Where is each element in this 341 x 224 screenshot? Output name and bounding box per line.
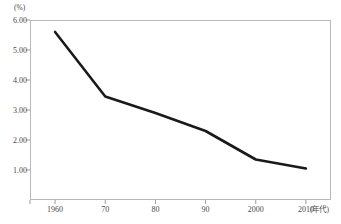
x-axis-tick-label: 90 bbox=[202, 205, 210, 214]
x-axis-tick-label: 2000 bbox=[248, 205, 264, 214]
x-axis-tick-label: 80 bbox=[151, 205, 159, 214]
x-axis-tick-label: 70 bbox=[101, 205, 109, 214]
x-axis-unit-label: (年代) bbox=[310, 205, 329, 214]
line-chart: (%) 6.005.004.003.002.001.00 19607080902… bbox=[0, 0, 341, 224]
x-axis-tick-label: 1960 bbox=[47, 205, 63, 214]
x-axis-tick-labels: 196070809020002010 bbox=[0, 0, 341, 224]
